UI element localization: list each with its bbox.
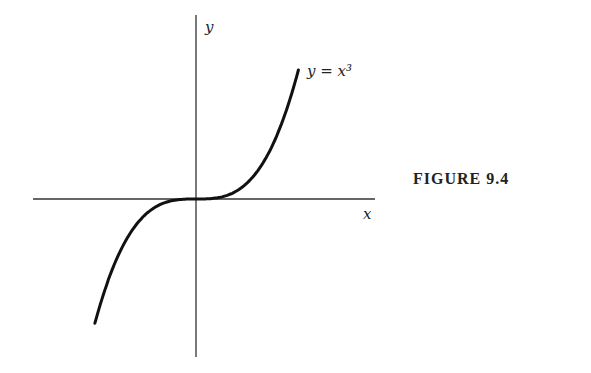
curve-label: y = x³ [307,62,352,80]
figure: y x y = x³ FIGURE 9.4 [0,0,591,373]
figure-caption: FIGURE 9.4 [413,170,509,188]
x-axis-label: x [363,205,371,223]
y-axis-label: y [205,18,213,36]
